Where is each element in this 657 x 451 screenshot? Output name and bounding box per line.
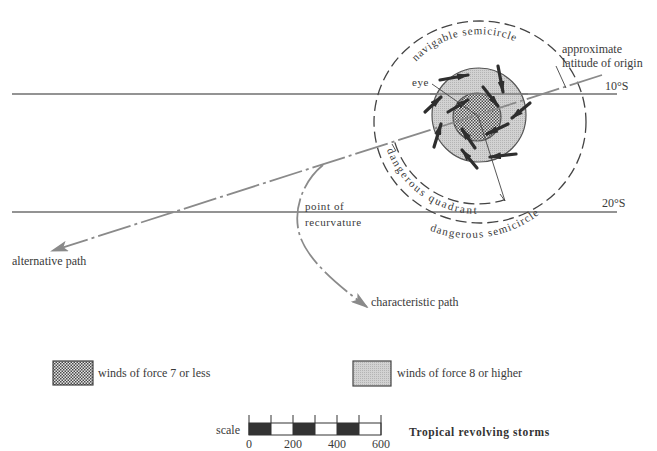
scale-tick-label: 600 bbox=[372, 437, 390, 451]
legend-swatch-dense-stipple bbox=[53, 361, 93, 385]
legend-swatch-light-stipple bbox=[353, 361, 391, 386]
eye-label: eye bbox=[412, 76, 429, 88]
scale-segment bbox=[271, 423, 293, 435]
scale-bar: scale 0 200 400 600 bbox=[216, 415, 390, 451]
recurvature-label-line2: recurvature bbox=[305, 216, 362, 228]
scale-tick-label: 0 bbox=[246, 437, 252, 451]
characteristic-path-label: characteristic path bbox=[371, 295, 459, 309]
scale-segment bbox=[359, 423, 381, 435]
tropical-storm-diagram: 10°S 20°S navigable semicircle d bbox=[0, 0, 657, 451]
scale-label: scale bbox=[216, 423, 240, 437]
dangerous-semicircle-label: dangerous semicircle bbox=[429, 206, 541, 240]
latitude-label-10s: 10°S bbox=[605, 79, 628, 93]
legend-label-force-8-or-higher: winds of force 8 or higher bbox=[397, 366, 522, 380]
scale-tick-label: 400 bbox=[328, 437, 346, 451]
figure-title: Tropical revolving storms bbox=[409, 426, 550, 439]
legend-label-force-7-or-less: winds of force 7 or less bbox=[98, 366, 211, 380]
scale-tick-label: 200 bbox=[284, 437, 302, 451]
alternative-path-label: alternative path bbox=[12, 254, 86, 268]
scale-segment bbox=[337, 423, 359, 435]
legend: winds of force 7 or less winds of force … bbox=[53, 361, 522, 386]
recurvature-label-line1: point of bbox=[305, 200, 344, 212]
scale-segment bbox=[249, 423, 271, 435]
scale-segment bbox=[315, 423, 337, 435]
navigable-semicircle-label: navigable semicircle bbox=[409, 24, 519, 63]
latitude-label-20s: 20°S bbox=[602, 196, 625, 210]
origin-label-line1: approximate bbox=[562, 42, 622, 56]
characteristic-path-curve bbox=[297, 165, 367, 307]
scale-segment bbox=[293, 423, 315, 435]
origin-label-line2: latitude of origin bbox=[562, 56, 643, 70]
